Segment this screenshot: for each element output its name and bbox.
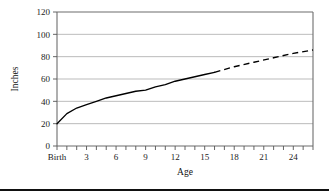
x-axis-ticks-group — [57, 146, 313, 150]
bottom-divider-rule — [0, 189, 329, 191]
x-tick-label-0: Birth — [48, 152, 67, 162]
x-tick-label-7: 21 — [259, 152, 268, 162]
x-tick-label-2: 6 — [114, 152, 119, 162]
y-tick-label-120: 120 — [37, 7, 51, 17]
y-axis-title: Inches — [10, 66, 20, 91]
y-tick-label-80: 80 — [41, 52, 51, 62]
x-axis-title: Age — [177, 167, 193, 177]
chart-canvas: 020406080100120 Birth3691215182124 Age I… — [0, 0, 329, 195]
y-tick-label-60: 60 — [41, 74, 51, 84]
y-axis-ticks-group — [53, 12, 57, 146]
y-tick-label-40: 40 — [41, 97, 51, 107]
x-tick-label-6: 18 — [230, 152, 240, 162]
y-axis-tick-labels-group: 020406080100120 — [37, 7, 51, 151]
y-tick-label-0: 0 — [46, 141, 51, 151]
x-tick-label-4: 12 — [171, 152, 180, 162]
x-tick-label-5: 15 — [200, 152, 210, 162]
growth-chart-figure: 020406080100120 Birth3691215182124 Age I… — [0, 0, 329, 195]
x-tick-label-1: 3 — [84, 152, 89, 162]
x-tick-label-8: 24 — [289, 152, 299, 162]
x-axis-tick-labels-group: Birth3691215182124 — [48, 152, 299, 162]
y-tick-label-100: 100 — [37, 30, 51, 40]
x-tick-label-3: 9 — [143, 152, 148, 162]
y-tick-label-20: 20 — [41, 119, 51, 129]
